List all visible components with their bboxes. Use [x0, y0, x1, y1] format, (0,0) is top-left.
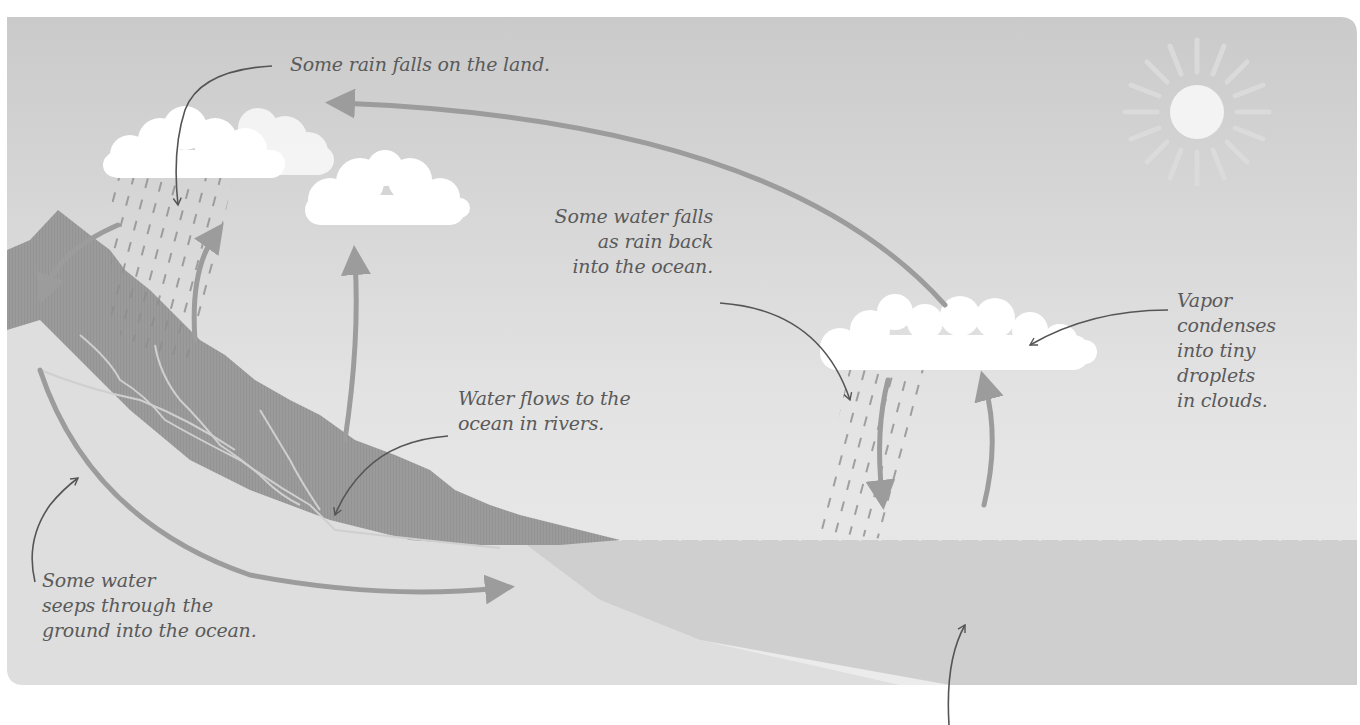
sun-icon [1125, 40, 1269, 184]
label-seepage: Some water seeps through the ground into… [42, 568, 256, 643]
label-rain-on-ocean: Some water falls as rain back into the o… [520, 204, 713, 279]
label-condense: Vapor condenses into tiny droplets in cl… [1177, 288, 1276, 413]
label-rivers: Water flows to the ocean in rivers. [458, 386, 630, 436]
label-rain-on-land: Some rain falls on the land. [290, 52, 550, 77]
water-cycle-diagram: Some rain falls on the land. Some water … [0, 0, 1360, 725]
